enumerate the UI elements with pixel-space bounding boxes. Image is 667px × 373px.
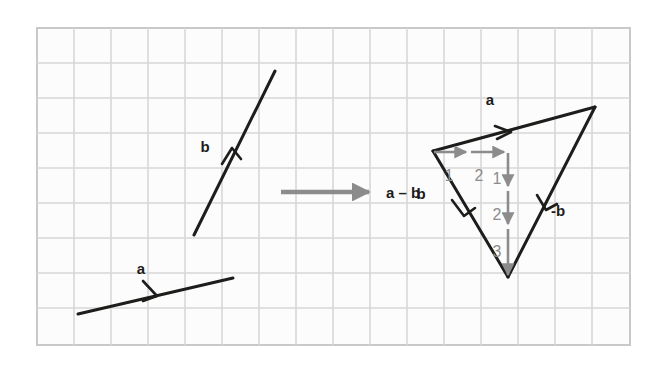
count-label-horizontal-2: 2 xyxy=(475,167,484,184)
count-label-vertical-1: 1 xyxy=(493,170,502,187)
count-label-vertical-2: 2 xyxy=(493,206,502,223)
label-vector-a-left: a xyxy=(137,260,146,277)
grid-paper xyxy=(37,28,630,345)
figure-canvas: a b a – b a b -b 1 2 1 2 3 xyxy=(0,0,667,373)
label-triangle-a: a xyxy=(486,91,495,108)
count-label-vertical-3: 3 xyxy=(493,243,502,260)
vector-subtraction-figure: a b a – b a b -b 1 2 1 2 3 xyxy=(0,0,667,373)
label-triangle-neg-b: -b xyxy=(551,202,565,219)
label-triangle-b: b xyxy=(416,185,425,202)
count-label-horizontal-1: 1 xyxy=(445,167,454,184)
label-vector-b-left: b xyxy=(200,138,209,155)
label-operation-a-minus-b: a – b xyxy=(386,184,420,201)
